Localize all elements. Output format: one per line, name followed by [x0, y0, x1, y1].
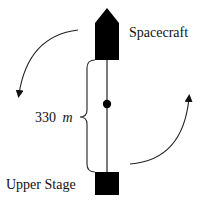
length-brace: [80, 60, 95, 172]
center-of-mass-dot: [103, 100, 111, 108]
length-label: 330 m: [35, 110, 73, 125]
length-unit: m: [63, 110, 73, 125]
spacecraft-shape: [95, 8, 119, 60]
spacecraft-label: Spacecraft: [129, 25, 188, 40]
rotation-arrow-right-icon: [130, 98, 189, 164]
upper-stage-shape: [95, 172, 119, 195]
length-value: 330: [35, 110, 56, 125]
upper-stage-label: Upper Stage: [6, 177, 76, 192]
rotation-arrow-left-icon: [19, 30, 78, 94]
tethered-spacecraft-diagram: 330 m Spacecraft Upper Stage: [0, 0, 203, 201]
